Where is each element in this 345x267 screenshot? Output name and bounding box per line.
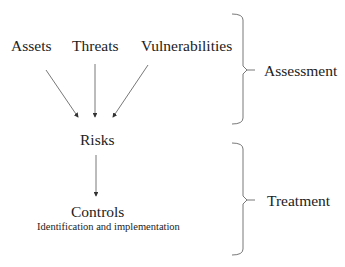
assets-label: Assets: [11, 38, 51, 54]
controls-label: Controls: [71, 204, 124, 220]
treatment-bracket-icon: [232, 143, 247, 255]
treatment-label: Treatment: [267, 193, 330, 209]
vulnerabilities-label: Vulnerabilities: [141, 38, 232, 54]
arrow-vulnerabilities-to-risks: [113, 65, 148, 117]
arrow-assets-to-risks: [46, 70, 78, 117]
assessment-bracket-icon: [232, 14, 247, 124]
controls-subtitle: Identification and implementation: [37, 222, 180, 233]
threats-label: Threats: [72, 38, 118, 54]
risks-label: Risks: [80, 132, 114, 148]
assessment-label: Assessment: [264, 63, 337, 79]
